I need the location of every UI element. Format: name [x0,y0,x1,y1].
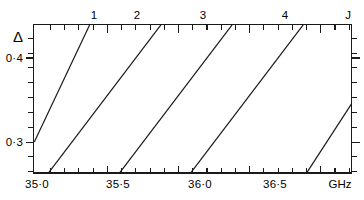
top-tick-label-1: 2 [134,9,140,21]
y-tick-label-0: 0·4 [6,52,24,64]
x-axis-unit-label: GHz [329,178,352,190]
chart-figure: 0·4 0·3 Δ 35·0 35·5 36·0 36·5 GHz 1 2 3 … [0,0,364,200]
plot-frame [34,25,352,174]
top-axis-label-j: J [345,9,351,21]
data-line-4 [191,25,303,173]
x-tick-label-1: 35·5 [106,178,130,190]
top-tick-label-0: 1 [91,9,97,21]
y-axis-label-delta: Δ [13,28,23,45]
data-line-1 [34,25,89,142]
data-line-5 [307,104,352,173]
x-tick-label-3: 36·5 [263,178,287,190]
plot-area: 0·4 0·3 Δ 35·0 35·5 36·0 36·5 GHz 1 2 3 … [0,0,364,200]
x-tick-label-2: 36·0 [188,178,212,190]
top-tick-label-3: 4 [282,9,289,21]
y-axis-ticks [26,38,34,172]
y-tick-label-1: 0·3 [6,136,23,148]
right-axis-ticks [352,38,360,172]
top-axis-ticks [51,25,350,33]
data-line-3 [120,25,232,173]
x-axis-ticks [51,166,350,174]
x-tick-label-0: 35·0 [25,178,49,190]
data-series-group [34,25,351,173]
data-line-2 [49,25,161,173]
top-tick-label-2: 3 [200,9,206,21]
